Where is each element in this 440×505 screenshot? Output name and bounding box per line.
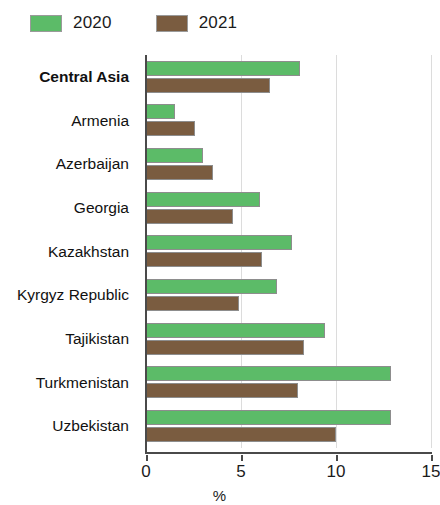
y-axis-line — [145, 55, 147, 453]
tick-label: 15 — [422, 462, 440, 482]
tick-label: 0 — [141, 462, 150, 482]
tick-mark — [146, 455, 148, 461]
x-axis-line — [145, 452, 432, 454]
bar-2020 — [146, 279, 277, 294]
category-label: Armenia — [0, 99, 137, 143]
bar-group — [146, 273, 431, 317]
legend-entry-2020: 2020 — [30, 13, 112, 33]
bar-2021 — [146, 296, 239, 311]
plot-area — [146, 55, 431, 448]
category-label: Kazakhstan — [0, 230, 137, 274]
bar-group — [146, 142, 431, 186]
legend-label-2021: 2021 — [199, 13, 238, 33]
bar-2020 — [146, 235, 292, 250]
bar-2020 — [146, 366, 391, 381]
bar-2021 — [146, 209, 233, 224]
bar-2020 — [146, 192, 260, 207]
bar-2021 — [146, 252, 262, 267]
bar-group — [146, 404, 431, 448]
bar-2020 — [146, 323, 325, 338]
bar-2020 — [146, 104, 175, 119]
tick-label: 10 — [327, 462, 346, 482]
tick-mark — [336, 455, 338, 461]
bar-2021 — [146, 340, 304, 355]
tick-mark — [431, 455, 433, 461]
category-label: Uzbekistan — [0, 404, 137, 448]
bar-2021 — [146, 78, 270, 93]
category-axis: Central AsiaArmeniaAzerbaijanGeorgiaKaza… — [0, 55, 137, 448]
tick-mark — [241, 455, 243, 461]
category-label: Tajikistan — [0, 317, 137, 361]
category-label: Turkmenistan — [0, 361, 137, 405]
bar-group — [146, 55, 431, 99]
x-axis-ticks: 051015 — [0, 455, 439, 483]
bar-2021 — [146, 383, 298, 398]
bar-2021 — [146, 121, 195, 136]
category-label: Georgia — [0, 186, 137, 230]
category-label: Kyrgyz Republic — [0, 273, 137, 317]
bar-2021 — [146, 165, 213, 180]
x-axis-title: % — [0, 487, 439, 504]
bar-group — [146, 230, 431, 274]
category-label: Central Asia — [0, 55, 137, 99]
bar-group — [146, 361, 431, 405]
gridline — [431, 55, 432, 448]
bar-2020 — [146, 410, 391, 425]
tick-label: 5 — [236, 462, 245, 482]
bar-chart: Central AsiaArmeniaAzerbaijanGeorgiaKaza… — [0, 46, 439, 505]
bar-2021 — [146, 427, 336, 442]
legend-entry-2021: 2021 — [156, 13, 238, 33]
legend-swatch-icon-2021 — [156, 15, 188, 32]
bar-2020 — [146, 61, 300, 76]
legend-label-2020: 2020 — [73, 13, 112, 33]
legend-swatch-icon-2020 — [30, 15, 62, 32]
bar-2020 — [146, 148, 203, 163]
bar-group — [146, 99, 431, 143]
bar-group — [146, 186, 431, 230]
bar-group — [146, 317, 431, 361]
chart-legend: 2020 2021 — [0, 0, 439, 46]
category-label: Azerbaijan — [0, 142, 137, 186]
